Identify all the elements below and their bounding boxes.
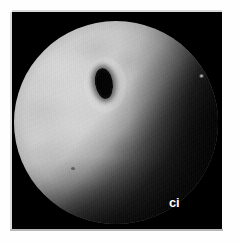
film-grain-layer bbox=[14, 21, 218, 224]
annotation-label-ci: ci bbox=[169, 196, 179, 209]
endoscopy-image-panel: ci bbox=[12, 12, 222, 229]
endoscope-field-of-view bbox=[14, 21, 218, 224]
panel-edge-bottom bbox=[10, 229, 223, 231]
figure-root: ci bbox=[0, 0, 239, 243]
